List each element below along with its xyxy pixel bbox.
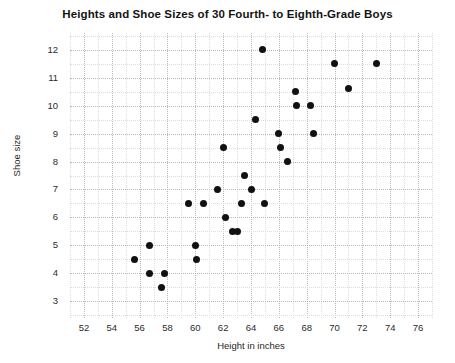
data-point xyxy=(259,46,266,53)
data-point xyxy=(222,214,229,221)
x-tick-label: 70 xyxy=(320,322,350,333)
x-tick-label: 58 xyxy=(152,322,182,333)
y-tick-label: 11 xyxy=(32,72,58,83)
data-point xyxy=(158,284,165,291)
x-tick-label: 52 xyxy=(69,322,99,333)
x-tick-label: 74 xyxy=(375,322,405,333)
x-tick-label: 62 xyxy=(208,322,238,333)
y-tick-label: 7 xyxy=(32,183,58,194)
data-point xyxy=(146,270,153,277)
y-tick-label: 9 xyxy=(32,128,58,139)
data-point xyxy=(161,270,168,277)
data-point xyxy=(200,200,207,207)
y-tick-label: 10 xyxy=(32,100,58,111)
data-point xyxy=(307,102,314,109)
x-axis-label: Height in inches xyxy=(70,340,432,351)
data-point xyxy=(193,256,200,263)
data-points-layer xyxy=(70,33,432,318)
data-point xyxy=(284,158,291,165)
y-tick-label: 6 xyxy=(32,211,58,222)
data-point xyxy=(293,102,300,109)
x-tick-label: 64 xyxy=(236,322,266,333)
scatter-chart: Heights and Shoe Sizes of 30 Fourth- to … xyxy=(0,0,455,363)
data-point xyxy=(220,144,227,151)
data-point xyxy=(277,144,284,151)
y-tick-label: 4 xyxy=(32,267,58,278)
y-tick-label: 5 xyxy=(32,239,58,250)
data-point xyxy=(275,130,282,137)
data-point xyxy=(331,60,338,67)
data-point xyxy=(241,172,248,179)
data-point xyxy=(131,256,138,263)
x-tick-label: 76 xyxy=(403,322,433,333)
gridline-vertical xyxy=(432,33,433,318)
x-tick-label: 54 xyxy=(97,322,127,333)
data-point xyxy=(248,186,255,193)
plot-area xyxy=(70,33,432,318)
y-tick-label: 8 xyxy=(32,156,58,167)
data-point xyxy=(261,200,268,207)
data-point xyxy=(310,130,317,137)
y-tick-label: 12 xyxy=(32,44,58,55)
data-point xyxy=(292,88,299,95)
chart-title: Heights and Shoe Sizes of 30 Fourth- to … xyxy=(0,8,455,20)
data-point xyxy=(185,200,192,207)
x-tick-label: 68 xyxy=(292,322,322,333)
x-tick-label: 60 xyxy=(180,322,210,333)
x-tick-label: 72 xyxy=(347,322,377,333)
data-point xyxy=(214,186,221,193)
data-point xyxy=(238,200,245,207)
data-point xyxy=(373,60,380,67)
data-point xyxy=(345,85,352,92)
data-point xyxy=(234,228,241,235)
x-tick-label: 56 xyxy=(125,322,155,333)
x-tick-label: 66 xyxy=(264,322,294,333)
data-point xyxy=(252,116,259,123)
data-point xyxy=(146,242,153,249)
data-point xyxy=(192,242,199,249)
y-tick-label: 3 xyxy=(32,295,58,306)
y-axis-label: Shoe size xyxy=(11,116,22,196)
